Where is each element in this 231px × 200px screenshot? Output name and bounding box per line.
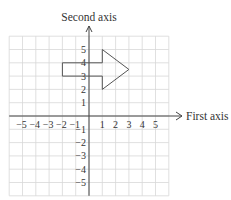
y-tick-label: −5 <box>75 177 86 188</box>
y-tick-label: 1 <box>81 97 86 108</box>
x-tick-label: 3 <box>126 119 131 130</box>
y-tick-label: −2 <box>75 137 86 148</box>
first-axis-label: First axis <box>186 110 229 122</box>
y-tick-label: −1 <box>75 124 86 135</box>
x-tick-label: −5 <box>16 119 27 130</box>
y-tick-label: 2 <box>81 84 86 95</box>
x-tick-label: 5 <box>153 119 158 130</box>
arrow-shape <box>62 50 128 90</box>
x-tick-label: −3 <box>43 119 54 130</box>
y-tick-label: 5 <box>81 44 86 55</box>
x-tick-label: −2 <box>56 119 67 130</box>
axes <box>9 26 182 196</box>
y-tick-label: −4 <box>75 164 86 175</box>
x-tick-label: 2 <box>113 119 118 130</box>
y-tick-label: −3 <box>75 150 86 161</box>
second-axis-label: Second axis <box>61 11 117 23</box>
x-tick-label: 1 <box>100 119 105 130</box>
coordinate-plane: −5−4−3−2−11234554321−1−2−3−4−5 Second ax… <box>0 0 231 200</box>
x-tick-label: 4 <box>140 119 145 130</box>
x-tick-label: −4 <box>29 119 40 130</box>
